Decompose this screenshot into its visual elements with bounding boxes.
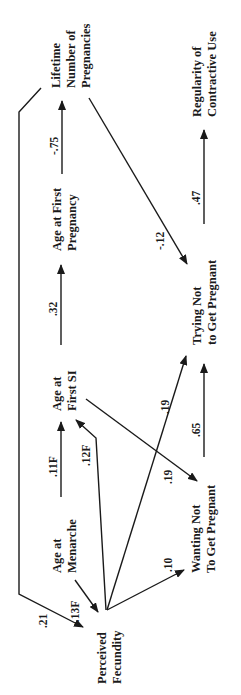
svg-text:First SI: First SI [65, 370, 79, 411]
node-age-first-pregnancy: Age at First Pregnancy [50, 187, 79, 251]
coef-lifetime-fecundity: .21 [37, 613, 49, 628]
node-age-menarche: Age at Menarche [50, 519, 79, 573]
svg-text:Contractive Use: Contractive Use [205, 31, 219, 117]
svg-text:Pregnancy: Pregnancy [65, 194, 79, 251]
svg-text:Age at: Age at [50, 538, 64, 573]
coef-first-pregnancy-lifetime: -.75 [48, 137, 60, 155]
path-diagram: Lifetime Number of Pregnancies Regularit… [0, 0, 241, 695]
svg-text:To Get Pregnant: To Get Pregnant [204, 484, 218, 573]
svg-text:Menarche: Menarche [65, 519, 79, 573]
edge-fecundity-to-trying [107, 356, 186, 610]
svg-text:Regularity of: Regularity of [190, 46, 204, 117]
coef-fecundity-first-si: .12F [80, 445, 92, 466]
coef-first-si-first-pregnancy: .32 [47, 301, 59, 316]
coef-trying-regularity: .47 [190, 190, 202, 205]
svg-text:Perceived: Perceived [95, 632, 109, 684]
node-wanting-not-to-get-pregnant: Wanting Not To Get Pregnant [189, 484, 218, 573]
node-age-first-si: Age at First SI [50, 370, 79, 411]
edge-fecundity-to-wanting [107, 570, 184, 610]
svg-text:Age at: Age at [50, 376, 64, 411]
node-trying-not-to-get-pregnant: Trying Not to Get Pregnant [190, 259, 219, 345]
node-regularity-contraceptive-use: Regularity of Contractive Use [190, 31, 219, 117]
coef-first-si-wanting: .19 [162, 469, 174, 484]
edge-lifetime-to-trying [89, 98, 187, 264]
coef-fecundity-trying: .19 [159, 399, 171, 414]
svg-text:Lifetime: Lifetime [49, 42, 63, 88]
svg-text:Trying Not: Trying Not [190, 286, 204, 345]
svg-text:Number of: Number of [64, 29, 78, 88]
coef-menarche-first-si: .11F [47, 456, 59, 477]
coef-fecundity-wanting: .10 [162, 557, 174, 572]
svg-text:to Get Pregnant: to Get Pregnant [205, 259, 219, 345]
svg-text:Fecundity: Fecundity [110, 630, 124, 684]
svg-text:Wanting Not: Wanting Not [189, 504, 203, 573]
node-perceived-fecundity: Perceived Fecundity [95, 630, 124, 684]
coef-wanting-trying: .65 [190, 422, 202, 437]
svg-text:Pregnancies: Pregnancies [79, 24, 93, 88]
svg-text:Age at First: Age at First [50, 187, 64, 251]
coef-menarche-fecundity: -.13F [69, 601, 81, 626]
coef-lifetime-trying: -.12 [154, 232, 166, 250]
edge-first-si-to-wanting [86, 399, 197, 481]
node-lifetime-pregnancies: Lifetime Number of Pregnancies [49, 24, 93, 88]
